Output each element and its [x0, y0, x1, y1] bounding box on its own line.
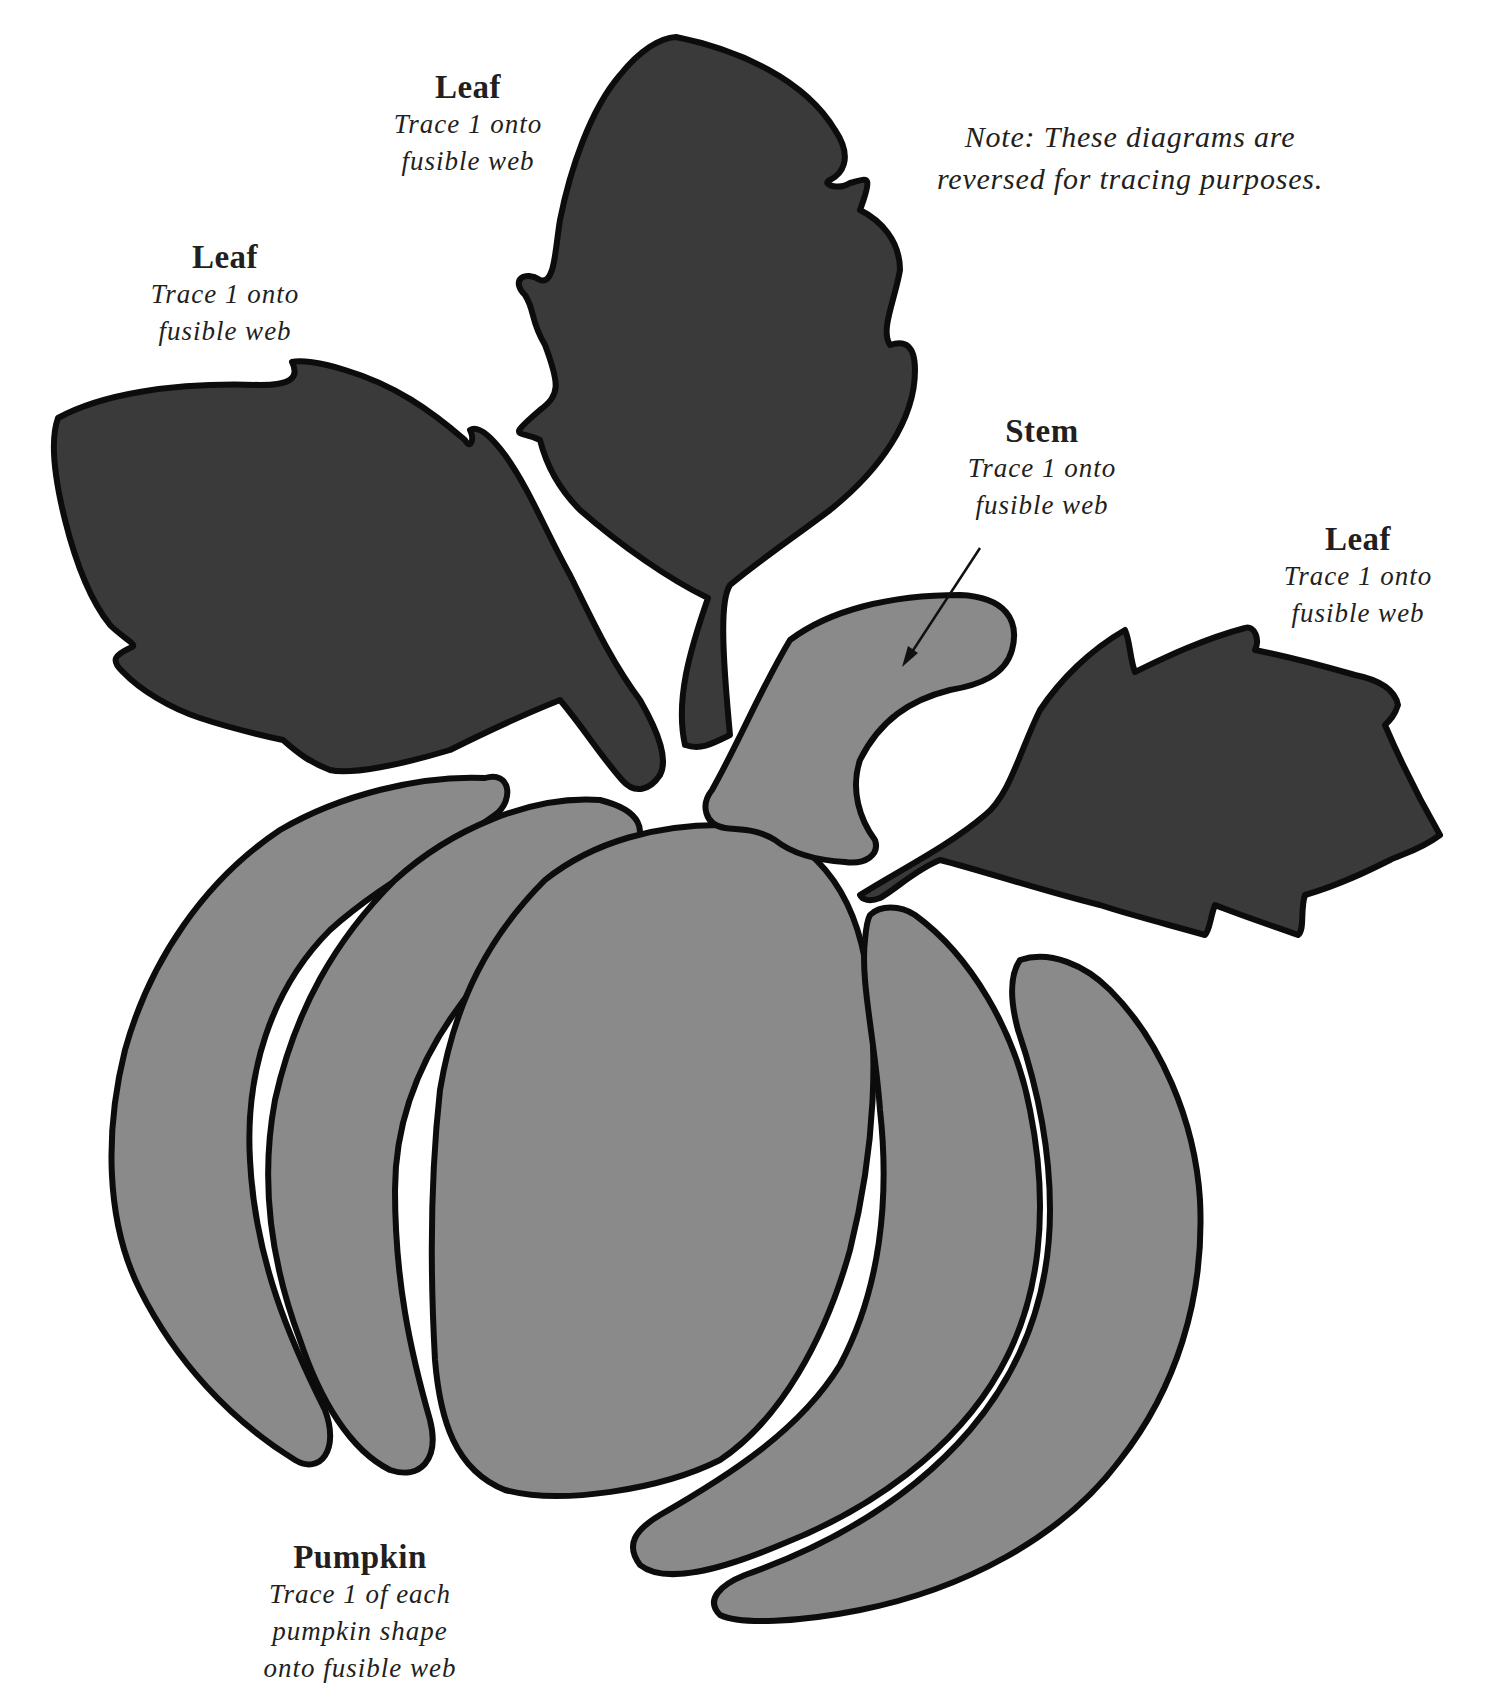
- label-pumpkin-line2: pumpkin shape: [240, 1613, 480, 1650]
- label-leaf-left-line1: Trace 1 onto: [125, 276, 325, 313]
- label-leaf-right-line1: Trace 1 onto: [1258, 558, 1458, 595]
- label-leaf-top-title: Leaf: [368, 68, 568, 106]
- label-leaf-left: Leaf Trace 1 onto fusible web: [125, 238, 325, 350]
- label-stem-title: Stem: [942, 412, 1142, 450]
- label-stem-line1: Trace 1 onto: [942, 450, 1142, 487]
- label-leaf-left-line2: fusible web: [125, 313, 325, 350]
- tracing-note: Note: These diagrams are reversed for tr…: [920, 116, 1340, 200]
- label-leaf-right-title: Leaf: [1258, 520, 1458, 558]
- stem-shape: [706, 595, 1014, 863]
- note-line2: reversed for tracing purposes.: [920, 158, 1340, 200]
- label-leaf-right: Leaf Trace 1 onto fusible web: [1258, 520, 1458, 632]
- label-leaf-left-title: Leaf: [125, 238, 325, 276]
- label-stem: Stem Trace 1 onto fusible web: [942, 412, 1142, 524]
- label-leaf-top-line2: fusible web: [368, 143, 568, 180]
- note-line1: Note: These diagrams are: [920, 116, 1340, 158]
- label-leaf-right-line2: fusible web: [1258, 595, 1458, 632]
- label-pumpkin: Pumpkin Trace 1 of each pumpkin shape on…: [240, 1538, 480, 1687]
- label-leaf-top-line1: Trace 1 onto: [368, 106, 568, 143]
- label-pumpkin-line1: Trace 1 of each: [240, 1576, 480, 1613]
- label-stem-line2: fusible web: [942, 487, 1142, 524]
- label-pumpkin-title: Pumpkin: [240, 1538, 480, 1576]
- label-pumpkin-line3: onto fusible web: [240, 1650, 480, 1687]
- label-leaf-top: Leaf Trace 1 onto fusible web: [368, 68, 568, 180]
